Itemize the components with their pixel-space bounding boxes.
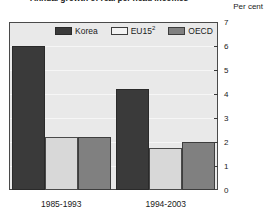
x-axis-label-1994-2003: 1994-2003: [145, 199, 186, 209]
legend-swatch-oecd: [168, 27, 185, 35]
legend-label-oecd: OECD: [188, 26, 213, 36]
y-axis-tick-mark: [214, 94, 218, 95]
y-axis-tick-mark: [214, 46, 218, 47]
chart-figure: Annual growth of real per head incomes P…: [0, 0, 265, 217]
y-axis-tick-label: 4: [224, 90, 244, 99]
chart-legend: KoreaEU152OECD: [55, 26, 213, 36]
legend-footnote-marker: 2: [152, 25, 155, 31]
y-axis-tick-label: 3: [224, 114, 244, 123]
chart-title: Annual growth of real per head incomes: [0, 0, 218, 3]
y-axis-tick-mark: [214, 70, 218, 71]
legend-item-oecd: OECD: [168, 26, 213, 36]
y-axis-tick-label: 0: [224, 186, 244, 195]
x-axis-label-1985-1993: 1985-1993: [41, 199, 82, 209]
legend-swatch-eu15: [111, 27, 128, 35]
y-axis-tick-label: 6: [224, 42, 244, 51]
y-axis-tick-label: 5: [224, 66, 244, 75]
y-axis-tick-mark: [214, 118, 218, 119]
y-axis-tick-label: 7: [224, 18, 244, 27]
legend-item-korea: Korea: [55, 26, 98, 36]
y-axis-tick-label: 2: [224, 138, 244, 147]
bar-oecd-1985-1993: [78, 137, 111, 190]
bar-oecd-1994-2003: [182, 142, 215, 190]
legend-swatch-korea: [55, 27, 72, 35]
legend-label-korea: Korea: [75, 26, 98, 36]
legend-item-eu15: EU152: [111, 26, 156, 36]
bar-korea-1985-1993: [12, 46, 45, 190]
bar-eu15-1985-1993: [45, 137, 78, 190]
legend-label-eu15: EU152: [131, 26, 156, 36]
y-axis-unit-label: Per cent: [233, 2, 263, 11]
y-axis-tick-label: 1: [224, 162, 244, 171]
bar-eu15-1994-2003: [149, 148, 182, 190]
bar-korea-1994-2003: [116, 89, 149, 190]
